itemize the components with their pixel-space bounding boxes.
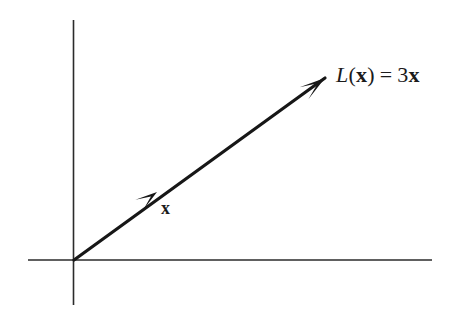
label-open-paren: ( xyxy=(348,62,356,87)
label-argument-vector: x xyxy=(356,62,367,87)
figure-drawing-surface xyxy=(0,0,455,323)
linear-transformation-figure: L(x)=3x x xyxy=(0,0,455,323)
label-transform-expression: L(x)=3x xyxy=(336,64,420,86)
label-vector-x: x xyxy=(161,199,170,217)
label-close-paren: ) xyxy=(367,62,375,87)
label-equals-sign: = xyxy=(380,62,393,87)
label-scalar-three: 3 xyxy=(397,62,408,87)
label-result-vector: x xyxy=(409,62,420,87)
figure-background xyxy=(0,0,455,323)
label-function-name: L xyxy=(336,62,348,87)
